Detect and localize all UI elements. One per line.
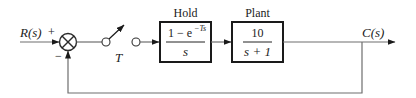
output-signal: C(s) [283, 25, 395, 42]
plant-title: Plant [245, 6, 270, 20]
hold-numerator: 1 − e [168, 26, 192, 40]
hold-title: Hold [174, 6, 198, 20]
plant-numerator: 10 [252, 26, 264, 40]
sampler-right-node [132, 38, 140, 46]
input-plus-sign: + [48, 25, 55, 39]
sampler-left-node [102, 38, 110, 46]
feedback-line [68, 42, 362, 93]
sampler-label: T [115, 50, 123, 65]
output-label: C(s) [362, 25, 384, 40]
sampler-switch: T [102, 25, 140, 65]
feedback-minus-sign: − [55, 49, 62, 63]
plant-denominator: s + 1 [244, 44, 271, 59]
hold-numerator-exponent: −Ts [194, 24, 206, 33]
summing-junction: − [55, 34, 77, 64]
hold-block: Hold 1 − e −Ts s [160, 6, 211, 62]
block-diagram: R(s) + − T Hold 1 − e −Ts s Plant 10 [0, 0, 416, 98]
feedback-path [68, 42, 362, 93]
input-label: R(s) [19, 25, 42, 40]
plant-block: Plant 10 s + 1 [232, 6, 283, 62]
hold-denominator: s [183, 44, 188, 59]
input-signal: R(s) + [19, 25, 59, 42]
sampler-switch-arm [109, 25, 124, 39]
